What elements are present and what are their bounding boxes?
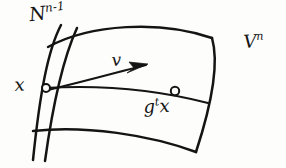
flow-image-point-marker [171,87,179,95]
transversal-section-curve [45,28,77,161]
label-tangent-vector-text: v [111,49,122,70]
label-tangent-vector: v [111,51,122,69]
label-manifold-superscript: n [256,30,264,43]
label-base-point-text: x [14,73,25,95]
label-base-point: x [14,75,25,94]
figure-canvas: Nn-1 Vn x v gtx [0,0,286,168]
patch-bottom-edge-curve [33,129,196,152]
patch-right-edge-curve [196,38,215,152]
label-flow-argument: x [159,95,170,117]
label-manifold-surface: Vn [243,31,265,51]
trajectory-curve [45,87,208,103]
tangent-vector-arrow-head [127,62,148,73]
base-point-marker [42,84,50,92]
label-flow-image-point: gtx [143,97,170,116]
label-transversal-superscript: n-1 [44,0,65,15]
diagram-svg [0,0,286,168]
